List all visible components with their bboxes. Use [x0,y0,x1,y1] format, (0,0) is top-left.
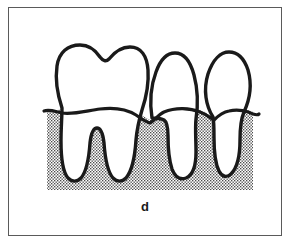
dentition-illustration: d [0,0,290,244]
figure-container: d [0,0,290,244]
figure-caption-label: d [141,199,149,214]
